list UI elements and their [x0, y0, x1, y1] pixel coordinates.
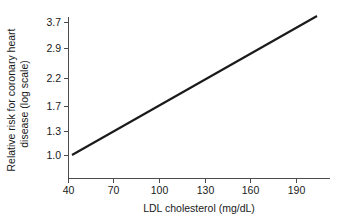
x-tick-label: 100 — [151, 184, 169, 196]
y-axis-title-line1: Relative risk for coronary heart — [5, 28, 17, 171]
x-axis-tick-labels: 40 70 100 130 160 190 — [63, 184, 306, 196]
y-tick-label: 1.0 — [46, 149, 61, 161]
chart-figure: 1.0 1.3 1.7 2.2 2.9 3.7 40 70 100 130 16… — [0, 0, 339, 223]
x-tick-label: 130 — [197, 184, 215, 196]
y-tick-label: 2.9 — [46, 42, 61, 54]
y-tick-label: 1.3 — [46, 125, 61, 137]
line-chart: 1.0 1.3 1.7 2.2 2.9 3.7 40 70 100 130 16… — [0, 0, 339, 223]
x-tick-label: 160 — [242, 184, 260, 196]
x-tick-label: 70 — [108, 184, 120, 196]
x-axis-title: LDL cholesterol (mg/dL) — [143, 202, 255, 214]
y-tick-label: 1.7 — [46, 100, 61, 112]
y-tick-label: 3.7 — [46, 16, 61, 28]
y-axis-title-line2: disease (log scale) — [18, 60, 30, 148]
x-tick-label: 190 — [288, 184, 306, 196]
x-tick-label: 40 — [63, 184, 75, 196]
y-axis-tick-labels: 1.0 1.3 1.7 2.2 2.9 3.7 — [46, 16, 61, 161]
data-series-line — [72, 16, 317, 155]
y-tick-label: 2.2 — [46, 72, 61, 84]
